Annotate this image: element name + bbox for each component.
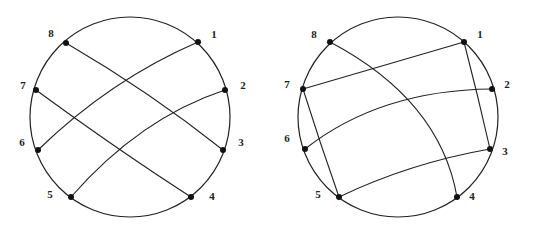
chord-6-2 — [305, 89, 492, 149]
point-label-3: 3 — [502, 145, 508, 157]
point-label-7: 7 — [284, 78, 290, 90]
point-label-6: 6 — [19, 136, 25, 148]
point-1 — [461, 39, 467, 45]
point-4 — [188, 194, 194, 200]
point-7 — [33, 87, 39, 93]
point-label-5: 5 — [315, 188, 321, 200]
circle-diagram-left: 12345678 — [19, 17, 246, 217]
point-label-2: 2 — [504, 78, 510, 90]
chord-7-1 — [303, 42, 464, 89]
point-5 — [68, 194, 74, 200]
point-8 — [63, 40, 69, 46]
point-label-7: 7 — [20, 79, 26, 91]
boundary-circle — [30, 17, 230, 217]
point-3 — [487, 146, 493, 152]
point-4 — [454, 194, 460, 200]
point-label-5: 5 — [47, 188, 53, 200]
point-7 — [300, 86, 306, 92]
chord-7-4 — [36, 90, 191, 197]
chord-5-2 — [71, 90, 225, 197]
point-label-2: 2 — [240, 79, 246, 91]
point-label-8: 8 — [48, 27, 54, 39]
point-2 — [222, 87, 228, 93]
point-label-8: 8 — [311, 28, 317, 40]
circle-diagram-right: 12345678 — [284, 17, 510, 217]
point-label-3: 3 — [238, 136, 244, 148]
point-label-4: 4 — [469, 190, 475, 202]
chord-diagrams: 1234567812345678 — [0, 0, 538, 233]
chord-1-3 — [464, 42, 490, 149]
point-2 — [489, 86, 495, 92]
point-label-1: 1 — [477, 28, 483, 40]
chord-6-1 — [38, 42, 198, 150]
point-6 — [302, 146, 308, 152]
point-3 — [220, 147, 226, 153]
point-label-6: 6 — [284, 132, 290, 144]
point-label-4: 4 — [209, 190, 215, 202]
point-6 — [35, 147, 41, 153]
chord-8-3 — [66, 43, 223, 150]
point-8 — [327, 39, 333, 45]
boundary-circle — [298, 17, 498, 217]
point-1 — [195, 39, 201, 45]
figure-container: 1234567812345678 — [0, 0, 538, 233]
point-5 — [336, 194, 342, 200]
point-label-1: 1 — [211, 28, 217, 40]
